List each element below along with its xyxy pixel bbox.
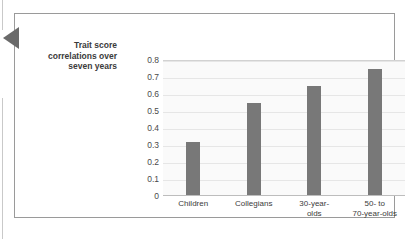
bar: [368, 69, 382, 195]
y-axis-tick-label: 0.8: [137, 55, 159, 65]
y-axis-tick-label: 0.2: [137, 157, 159, 167]
bar: [307, 86, 321, 195]
x-axis-baseline: [163, 195, 405, 196]
y-axis-caption-line: seven years: [22, 61, 117, 72]
page-edge-rule-top: [2, 0, 3, 30]
y-axis-caption-line: Trait score: [22, 40, 117, 51]
y-axis-tick-label: 0.1: [137, 174, 159, 184]
x-axis-category-label: Children: [158, 199, 228, 209]
y-axis-caption-line: correlations over: [22, 51, 117, 62]
chart-bars: [163, 61, 405, 195]
x-axis-category-label-line: 30-year-: [299, 199, 329, 208]
x-axis-category-label: 50- to70-year-olds: [340, 199, 408, 219]
chart-plot-container: 0.80.70.60.50.40.30.20.10: [137, 60, 405, 202]
x-axis-category-label-line: 70-year-olds: [340, 209, 408, 219]
left-triangle-pointer-icon: [3, 27, 19, 49]
y-axis-tick-label: 0.7: [137, 72, 159, 82]
y-axis-tick-label: 0.4: [137, 123, 159, 133]
bar: [186, 142, 200, 195]
x-axis-category-label-line: Children: [178, 199, 208, 208]
x-axis-category-labels: ChildrenCollegians30-year-olds50- to70-y…: [163, 199, 405, 229]
y-axis-tick-label: 0.5: [137, 106, 159, 116]
x-axis-category-label-line: olds: [279, 209, 349, 219]
x-axis-category-label: Collegians: [219, 199, 289, 209]
x-axis-category-label-line: 50- to: [365, 199, 385, 208]
y-axis-caption: Trait scorecorrelations overseven years: [22, 40, 117, 72]
x-axis-category-label: 30-year-olds: [279, 199, 349, 219]
bar: [247, 103, 261, 195]
chart-plot-area: [163, 60, 405, 196]
y-axis-tick-labels: 0.80.70.60.50.40.30.20.10: [137, 60, 159, 202]
y-axis-tick-label: 0.3: [137, 140, 159, 150]
y-axis-tick-label: 0.6: [137, 89, 159, 99]
x-axis-category-label-line: Collegians: [235, 199, 272, 208]
y-axis-tick-label: 0: [137, 191, 159, 201]
page-edge-rule-bottom: [2, 98, 3, 239]
